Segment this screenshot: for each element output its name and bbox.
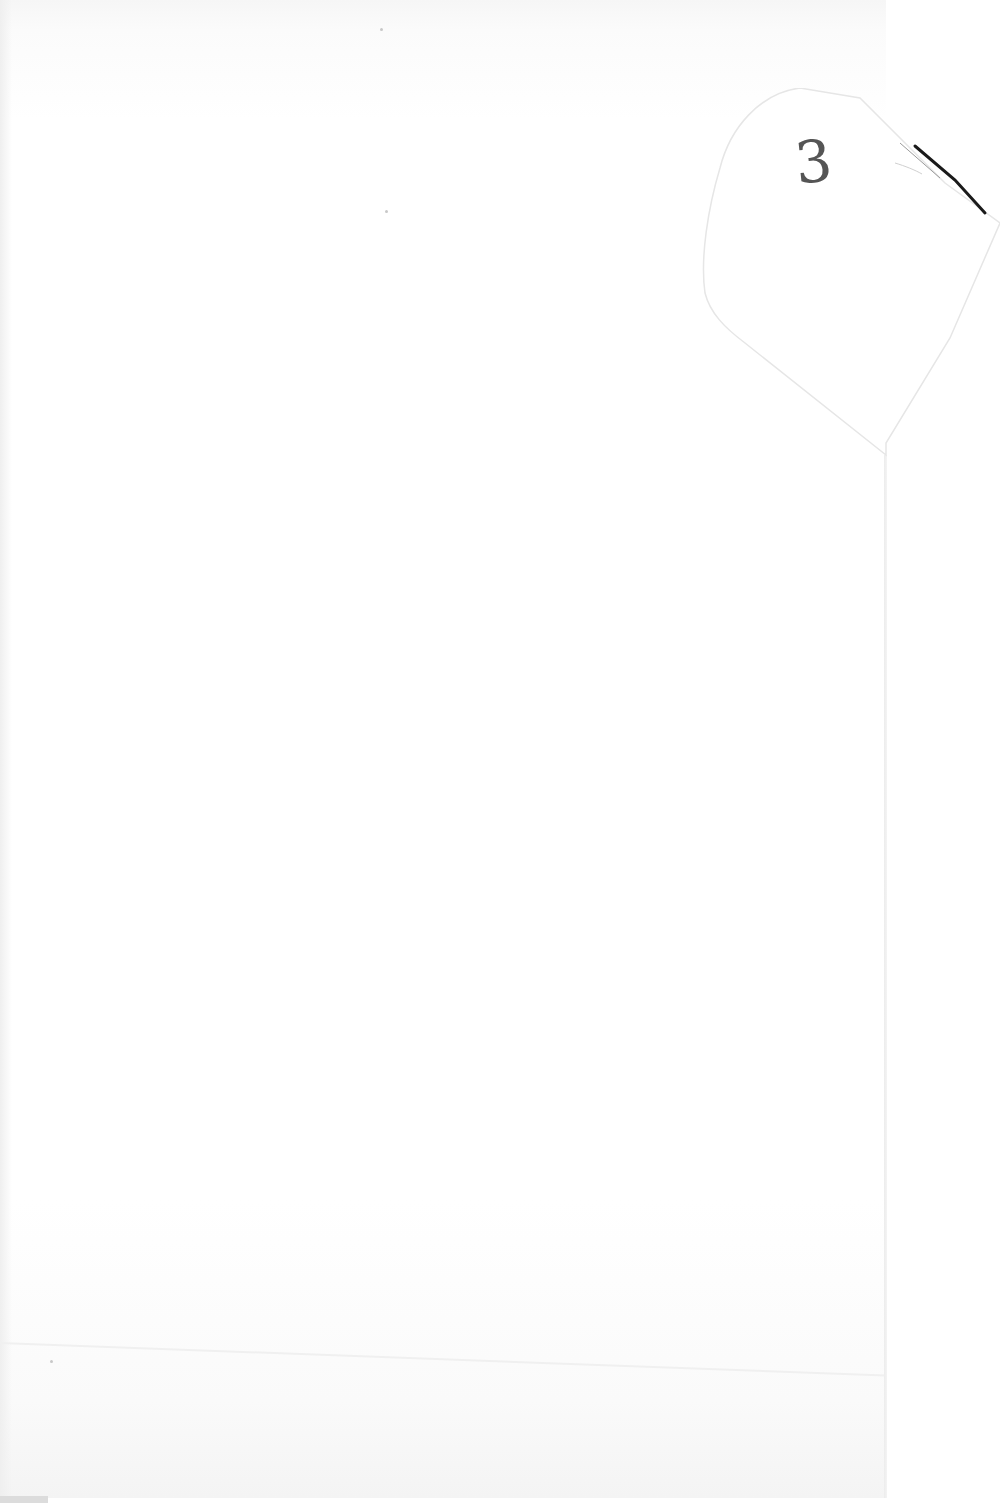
scan-speck xyxy=(380,28,383,31)
bottom-crease xyxy=(0,1342,885,1376)
fold-shape-icon xyxy=(700,88,1000,458)
folded-corner-tab: 3 xyxy=(700,88,1000,458)
scan-speck xyxy=(50,1360,53,1363)
scan-speck xyxy=(385,210,388,213)
page-left-edge xyxy=(0,0,12,1498)
page-number: 3 xyxy=(792,126,836,197)
scan-corner-mark xyxy=(0,1496,48,1503)
page-right-edge xyxy=(884,455,887,1498)
